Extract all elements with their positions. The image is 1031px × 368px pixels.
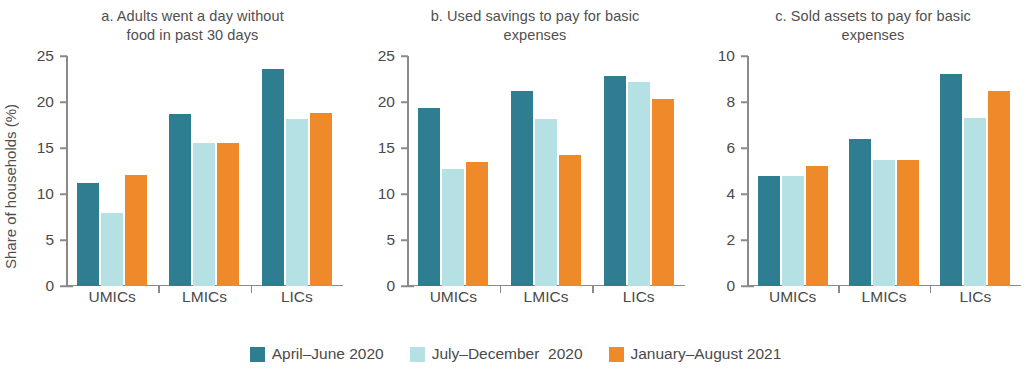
bar-group: [158, 56, 250, 286]
bar: [849, 139, 871, 286]
bar-group: [930, 56, 1021, 286]
y-tick-label: 0: [726, 277, 735, 295]
y-tick-label: 0: [386, 277, 395, 295]
bar: [310, 113, 332, 286]
y-tick-label: 15: [378, 139, 395, 157]
y-tick-mark: [741, 239, 748, 241]
y-axis-label: Share of households (%): [2, 86, 22, 286]
bar: [559, 155, 581, 286]
y-tick-label: 25: [378, 47, 395, 65]
x-tick-label: LMICs: [158, 288, 250, 306]
legend-item[interactable]: April–June 2020: [250, 345, 384, 363]
bar: [169, 114, 191, 286]
bar: [418, 108, 440, 286]
panel-c-x-ticklabels: UMICsLMICsLICs: [747, 288, 1021, 306]
bar-group: [251, 56, 343, 286]
bar: [262, 69, 284, 286]
bar-group: [838, 56, 929, 286]
bar-group: [500, 56, 593, 286]
panel-a-axes: 0510152025 UMICsLMICsLICs: [26, 56, 343, 286]
y-tick-mark: [401, 55, 408, 57]
bar: [628, 82, 650, 286]
y-tick-mark: [741, 193, 748, 195]
legend-item[interactable]: July–December 2020: [410, 345, 583, 363]
bar: [964, 118, 986, 286]
bar: [101, 213, 123, 286]
y-tick-label: 25: [37, 47, 54, 65]
x-tick-label: UMICs: [66, 288, 158, 306]
y-tick-label: 4: [726, 185, 735, 203]
y-tick-label: 2: [726, 231, 735, 249]
bar: [988, 91, 1010, 287]
legend-swatch-icon: [250, 347, 265, 362]
legend-swatch-icon: [410, 347, 425, 362]
y-tick-mark: [741, 285, 754, 287]
y-tick-mark: [60, 55, 67, 57]
bar-group: [407, 56, 500, 286]
y-tick-mark: [741, 101, 748, 103]
y-tick-mark: [60, 239, 67, 241]
legend-label: April–June 2020: [272, 345, 384, 363]
bar: [442, 169, 464, 286]
panel-a-plot-area: [66, 56, 343, 286]
y-tick-label: 10: [37, 185, 54, 203]
legend-item[interactable]: January–August 2021: [609, 345, 782, 363]
x-tick-label: LICs: [251, 288, 343, 306]
panel-b-x-ticklabels: UMICsLMICsLICs: [407, 288, 685, 306]
panel-a-title: a. Adults went a day without food in pas…: [0, 0, 355, 46]
panel-b-y-ticklabels: 0510152025: [367, 56, 401, 286]
bar: [286, 119, 308, 286]
bar: [511, 91, 533, 286]
y-tick-label: 8: [726, 93, 735, 111]
y-tick-label: 15: [37, 139, 54, 157]
panel-c-y-ticklabels: 0246810: [707, 56, 741, 286]
legend-label: July–December 2020: [432, 345, 583, 363]
panel-a-x-ticklabels: UMICsLMICsLICs: [66, 288, 343, 306]
panel-a-bar-groups: [66, 56, 343, 286]
panel-b-plot-area: [407, 56, 685, 286]
panel-b-plot: 0510152025 UMICsLMICsLICs: [355, 46, 695, 308]
y-tick-mark: [60, 193, 67, 195]
panel-c-axes: 0246810 UMICsLMICsLICs: [707, 56, 1021, 286]
y-tick-label: 0: [45, 277, 54, 295]
bar: [873, 160, 895, 287]
panel-b: b. Used savings to pay for basic expense…: [355, 0, 695, 335]
y-tick-label: 20: [378, 93, 395, 111]
legend-swatch-icon: [609, 347, 624, 362]
y-tick-mark: [401, 239, 408, 241]
panel-c: c. Sold assets to pay for basic expenses…: [695, 0, 1031, 335]
bar-group: [592, 56, 685, 286]
panel-c-bar-groups: [747, 56, 1021, 286]
panel-a: a. Adults went a day without food in pas…: [0, 0, 355, 335]
chart-legend: April–June 2020July–December 2020January…: [0, 345, 1031, 363]
y-tick-label: 5: [386, 231, 395, 249]
panels-row: a. Adults went a day without food in pas…: [0, 0, 1031, 335]
panel-b-axes: 0510152025 UMICsLMICsLICs: [367, 56, 685, 286]
x-tick-label: LICs: [592, 288, 685, 306]
figure-container: a. Adults went a day without food in pas…: [0, 0, 1031, 368]
x-tick-label: UMICs: [407, 288, 500, 306]
y-tick-mark: [60, 285, 73, 287]
bar: [466, 162, 488, 286]
y-tick-mark: [60, 101, 67, 103]
panel-b-bar-groups: [407, 56, 685, 286]
bar: [940, 74, 962, 286]
y-tick-label: 20: [37, 93, 54, 111]
bar-group: [747, 56, 838, 286]
x-tick-label: UMICs: [747, 288, 838, 306]
panel-c-plot: 0246810 UMICsLMICsLICs: [695, 46, 1031, 308]
y-tick-mark: [741, 147, 748, 149]
y-tick-label: 5: [45, 231, 54, 249]
y-tick-label: 10: [718, 47, 735, 65]
bar: [604, 76, 626, 286]
y-tick-label: 6: [726, 139, 735, 157]
panel-c-title: c. Sold assets to pay for basic expenses: [695, 0, 1031, 46]
panel-b-title: b. Used savings to pay for basic expense…: [355, 0, 695, 46]
y-tick-mark: [401, 193, 408, 195]
y-tick-mark: [741, 55, 748, 57]
legend-label: January–August 2021: [631, 345, 782, 363]
x-tick-label: LICs: [930, 288, 1021, 306]
panel-a-y-ticklabels: 0510152025: [26, 56, 60, 286]
y-tick-mark: [401, 101, 408, 103]
bar: [758, 176, 780, 286]
